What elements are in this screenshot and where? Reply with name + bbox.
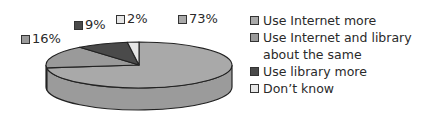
legend-item-use-library-more: Use library more: [250, 63, 412, 80]
data-label-swatch: [21, 35, 30, 44]
data-label-use-both-same: 16%: [21, 32, 61, 46]
legend-item-dont-know: Don’t know: [250, 80, 412, 97]
data-label-use-library-more: 9%: [74, 18, 106, 32]
legend-swatch: [250, 84, 259, 93]
legend-swatch: [250, 67, 259, 76]
legend-item-use-both-same: Use Internet and library about the same: [250, 29, 412, 63]
data-label-swatch: [116, 15, 125, 24]
legend-swatch: [250, 33, 259, 42]
data-label-swatch: [74, 21, 83, 30]
data-label-swatch: [178, 15, 187, 24]
legend-item-use-internet-more: Use Internet more: [250, 12, 412, 29]
legend: Use Internet more Use Internet and libra…: [250, 12, 412, 97]
data-label-use-internet-more: 73%: [178, 12, 218, 26]
data-label-dont-know: 2%: [116, 12, 148, 26]
legend-swatch: [250, 16, 259, 25]
